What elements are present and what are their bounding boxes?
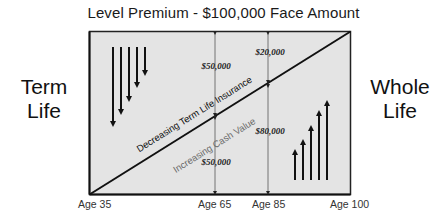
diagram-canvas: $50,000 $50,000 $20,000 $80,000 Decreasi…	[0, 0, 447, 221]
age65-insurance-amount: $50,000	[200, 61, 231, 71]
age85-cash-amount: $80,000	[254, 126, 285, 136]
age-85-label: Age 85	[252, 198, 285, 210]
age65-cash-amount: $50,000	[200, 157, 231, 167]
age-65-label: Age 65	[198, 198, 231, 210]
age85-insurance-amount: $20,000	[254, 47, 285, 57]
age-35-label: Age 35	[78, 198, 111, 210]
age-100-label: Age 100	[330, 198, 369, 210]
